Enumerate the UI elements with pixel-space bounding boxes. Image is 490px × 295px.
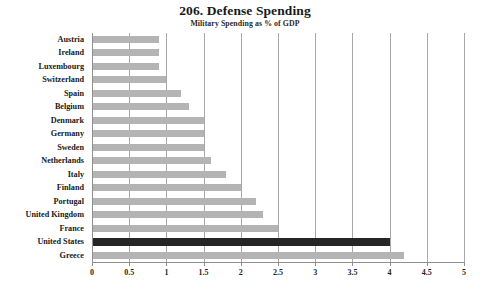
category-label: France — [59, 222, 84, 235]
y-axis-line — [92, 33, 93, 263]
x-tick-label: 1 — [164, 268, 168, 277]
bar — [92, 184, 241, 191]
x-tick — [315, 262, 316, 266]
category-label: United Kingdom — [26, 208, 84, 221]
x-tick — [352, 262, 353, 266]
bar-row — [92, 154, 464, 167]
category-label: Sweden — [57, 141, 84, 154]
category-label: Ireland — [58, 46, 84, 59]
bar-row — [92, 249, 464, 262]
bar-row — [92, 114, 464, 127]
bar-row — [92, 60, 464, 73]
bar — [92, 144, 204, 151]
bar-row — [92, 87, 464, 100]
bar — [92, 117, 204, 124]
bar — [92, 49, 159, 56]
bar — [92, 36, 159, 43]
category-label: Belgium — [55, 100, 84, 113]
bar — [92, 130, 204, 137]
bar-row — [92, 73, 464, 86]
bar — [92, 225, 278, 232]
category-label: Luxembourg — [39, 60, 85, 73]
bar — [92, 238, 390, 246]
x-tick-label: 2.5 — [273, 268, 283, 277]
chart-subtitle: Military Spending as % of GDP — [0, 19, 490, 28]
category-label: Portugal — [54, 195, 84, 208]
bar — [92, 90, 181, 97]
category-label: Denmark — [51, 114, 84, 127]
bar-row — [92, 141, 464, 154]
x-tick — [390, 262, 391, 266]
x-tick — [166, 262, 167, 266]
bar-row — [92, 33, 464, 46]
bar — [92, 252, 404, 259]
bar-row — [92, 181, 464, 194]
plot-area — [92, 33, 464, 262]
x-tick — [241, 262, 242, 266]
bar — [92, 103, 189, 110]
category-label: Switzerland — [42, 73, 84, 86]
category-label: Germany — [51, 127, 84, 140]
bar — [92, 76, 166, 83]
x-tick — [204, 262, 205, 266]
x-tick — [427, 262, 428, 266]
x-tick-label: 1.5 — [199, 268, 209, 277]
category-label: United States — [37, 235, 84, 248]
defense-spending-chart: 206. Defense Spending Military Spending … — [0, 0, 490, 295]
x-tick — [464, 262, 465, 266]
x-tick-label: 0.5 — [124, 268, 134, 277]
bar-row — [92, 195, 464, 208]
x-tick-label: 4 — [388, 268, 392, 277]
bar — [92, 157, 211, 164]
category-label: Netherlands — [41, 154, 84, 167]
bar-row — [92, 235, 464, 248]
category-label: Italy — [68, 168, 84, 181]
bar-row — [92, 100, 464, 113]
x-tick — [92, 262, 93, 266]
bar-row — [92, 222, 464, 235]
x-tick-label: 2 — [239, 268, 243, 277]
x-tick — [129, 262, 130, 266]
x-tick-label: 4.5 — [422, 268, 432, 277]
category-label: Finland — [57, 181, 84, 194]
bar-row — [92, 127, 464, 140]
x-tick-label: 3 — [313, 268, 317, 277]
x-tick-label: 5 — [462, 268, 466, 277]
bar-row — [92, 168, 464, 181]
x-tick — [278, 262, 279, 266]
bar — [92, 198, 256, 205]
bar — [92, 211, 263, 218]
gridline — [464, 33, 465, 262]
category-label: Spain — [64, 87, 84, 100]
x-tick-label: 3.5 — [347, 268, 357, 277]
x-tick-label: 0 — [90, 268, 94, 277]
bar — [92, 63, 159, 70]
category-label: Greece — [60, 249, 84, 262]
category-axis-labels: AustriaIrelandLuxembourgSwitzerlandSpain… — [0, 33, 88, 262]
bar — [92, 171, 226, 178]
bar-row — [92, 46, 464, 59]
bar-row — [92, 208, 464, 221]
category-label: Austria — [58, 33, 84, 46]
chart-title: 206. Defense Spending — [0, 3, 490, 19]
